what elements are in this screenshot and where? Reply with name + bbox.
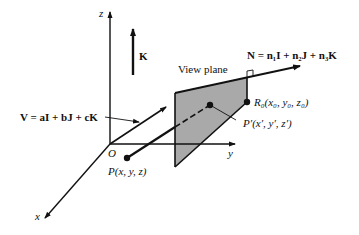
point-r0 bbox=[244, 99, 250, 105]
x-axis bbox=[45, 144, 110, 218]
p-point-label: P(x, y, z) bbox=[108, 166, 146, 177]
pprime-point-label: P′(x′, y′, z′) bbox=[243, 118, 292, 129]
k-vector-label: K bbox=[139, 51, 148, 62]
point-pprime bbox=[207, 102, 213, 108]
v-vector-label: V = aI + bJ + cK bbox=[20, 112, 98, 123]
projection-line-solid bbox=[127, 127, 175, 158]
view-plane-label: View plane bbox=[178, 64, 228, 75]
view-plane-diagram: z y x O K V = aI + bJ + cK N = n₁I + n₂J… bbox=[0, 0, 359, 235]
r0-point-label: R₀(x₀, y₀, z₀) bbox=[254, 97, 308, 108]
x-axis-label: x bbox=[35, 211, 40, 222]
origin-label: O bbox=[108, 148, 116, 159]
point-p bbox=[124, 155, 130, 161]
z-axis-label: z bbox=[99, 8, 103, 19]
y-axis-label: y bbox=[228, 148, 233, 159]
n-vector-label: N = n₁I + n₂J + n₃K bbox=[247, 50, 337, 61]
